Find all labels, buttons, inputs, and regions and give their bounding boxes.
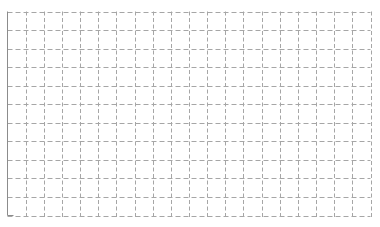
chart [0,0,380,227]
vertical-gridlines [27,12,372,218]
axes [8,12,14,216]
chart-canvas [0,0,380,227]
horizontal-gridlines [8,13,371,217]
